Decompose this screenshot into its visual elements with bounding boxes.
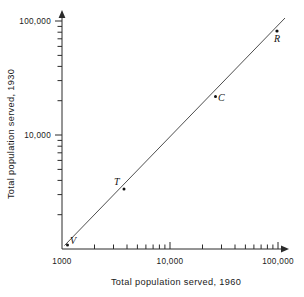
x-axis-arrow-icon	[281, 246, 289, 253]
x-axis-title: Total population served, 1960	[111, 277, 241, 287]
x-axis	[62, 246, 289, 253]
x-ticklabel-10000: 10,000	[157, 257, 184, 266]
scatter-chart: V T C R 100,000 10,000 1000 10,000 100,0…	[0, 0, 304, 297]
data-label-r: R	[273, 33, 280, 44]
data-points	[66, 29, 279, 246]
data-label-c: C	[218, 92, 225, 103]
data-point-t[interactable]	[123, 188, 126, 191]
x-ticklabel-1000: 1000	[52, 257, 72, 266]
y-axis-title: Total population served, 1930	[6, 69, 16, 199]
reference-line	[65, 18, 286, 246]
y-axis	[59, 10, 66, 249]
data-point-v[interactable]	[66, 244, 69, 247]
data-label-t: T	[114, 176, 121, 187]
data-label-v: V	[70, 235, 78, 246]
data-point-c[interactable]	[214, 95, 217, 98]
x-ticklabel-100000: 100,000	[262, 257, 294, 266]
y-ticklabel-10000: 10,000	[24, 131, 51, 140]
y-ticklabel-100000: 100,000	[19, 17, 51, 26]
x-axis-ticks	[95, 242, 279, 249]
y-axis-arrow-icon	[59, 10, 66, 18]
y-axis-ticks	[55, 21, 62, 215]
